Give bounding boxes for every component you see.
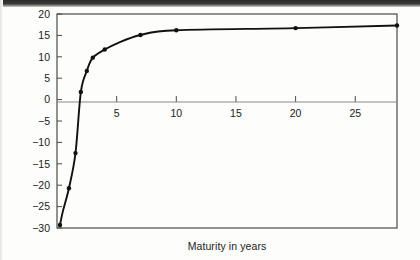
data-point-marker <box>91 55 95 59</box>
x-tick-label: 15 <box>230 107 242 119</box>
y-tick-label: 15 <box>38 29 50 41</box>
x-axis-label: Maturity in years <box>57 240 397 252</box>
y-tick-label: 0 <box>44 93 50 105</box>
x-tick-label: 5 <box>114 107 120 119</box>
y-tick-label: 5 <box>44 72 50 84</box>
y-tick-label: −20 <box>32 179 50 191</box>
data-point-marker <box>79 90 83 94</box>
data-point-markers <box>58 23 399 227</box>
data-point-marker <box>73 151 77 155</box>
plot-frame <box>57 14 397 228</box>
x-axis-ticks: 510152025 <box>114 96 362 119</box>
y-tick-label: −25 <box>32 200 50 212</box>
x-tick-label: 20 <box>290 107 302 119</box>
y-tick-label: −15 <box>32 158 50 170</box>
chart-figure: Monthly spot rate standard deviation in … <box>0 0 420 260</box>
x-tick-label: 10 <box>170 107 182 119</box>
data-point-marker <box>58 223 62 227</box>
y-tick-label: 10 <box>38 51 50 63</box>
data-point-marker <box>395 23 399 27</box>
x-tick-label: 25 <box>349 107 361 119</box>
data-point-marker <box>138 33 142 37</box>
y-tick-label: −10 <box>32 136 50 148</box>
y-tick-label: 20 <box>38 8 50 20</box>
data-point-marker <box>67 186 71 190</box>
y-tick-label: −5 <box>38 115 50 127</box>
data-point-marker <box>85 69 89 73</box>
series-line <box>60 26 397 225</box>
data-series-line <box>60 26 397 225</box>
plot-area: 20151050−5−10−15−20−25−30 510152025 <box>0 0 420 260</box>
y-tick-label: −30 <box>32 222 50 234</box>
data-point-marker <box>174 28 178 32</box>
data-point-marker <box>103 47 107 51</box>
data-point-marker <box>293 26 297 30</box>
